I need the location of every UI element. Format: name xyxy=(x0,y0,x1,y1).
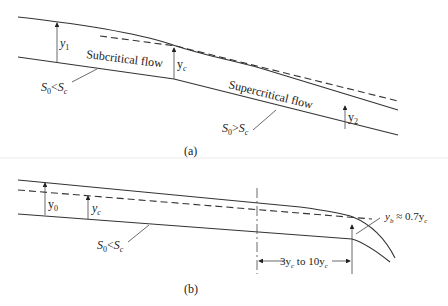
yc-label-a: yc xyxy=(177,57,187,73)
mild-slope-leader-b xyxy=(128,225,149,242)
caption-b: (b) xyxy=(184,282,198,296)
subcritical-flow-label: Subcritical flow xyxy=(86,47,164,70)
yc-label-b: yc xyxy=(91,201,101,217)
mild-slope-label-a: S0<Sc xyxy=(41,80,68,96)
caption-a: (a) xyxy=(184,144,197,158)
panel-b: y0 yc S0<Sc 3yc to 10yc yb ≈ 0.7yc (b) xyxy=(18,180,428,296)
distance-label: 3yc to 10yc xyxy=(280,255,329,270)
steep-slope-label-a: S0>Sc xyxy=(222,121,249,137)
y2-label: y2 xyxy=(348,110,358,126)
y0-label: y0 xyxy=(48,197,58,213)
water-surface-a xyxy=(18,17,398,110)
brink-depth-label: yb ≈ 0.7yc xyxy=(384,210,428,225)
supercritical-flow-label: Supercritical flow xyxy=(227,77,314,112)
mild-slope-label-b: S0<Sc xyxy=(97,238,124,254)
y1-label: y1 xyxy=(59,36,69,52)
panel-a: y1 yc y2 Subcritical flow Supercritical … xyxy=(18,17,398,158)
channel-bed-a xyxy=(18,57,398,135)
mild-slope-leader xyxy=(72,69,97,82)
water-surface-b xyxy=(18,180,395,258)
steep-slope-leader xyxy=(253,110,276,130)
critical-depth-line-b xyxy=(18,190,372,219)
channel-bed-b xyxy=(18,214,390,262)
flow-profile-diagram: y1 yc y2 Subcritical flow Supercritical … xyxy=(0,0,448,306)
